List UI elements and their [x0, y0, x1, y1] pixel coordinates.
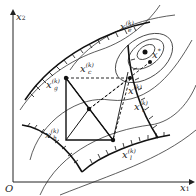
optimum-label: x*: [152, 48, 161, 60]
complex-method-diagram: x2 x1 O x* x(k)e x(k)c x(k)g x(k)h x(k)r…: [0, 0, 196, 196]
xl-label: x(k)l: [122, 148, 132, 161]
xg-label: x(k)g: [46, 78, 58, 91]
xc-label: x(k)c: [80, 62, 91, 75]
xh-label: x(k)h: [45, 128, 57, 141]
xr-label: x(k)r: [134, 100, 145, 113]
x-axis-label: x1: [180, 183, 189, 193]
xe-label: x(k)e: [120, 20, 132, 33]
xk-label: x(k): [128, 84, 142, 96]
y-axis-label: x2: [16, 12, 25, 22]
origin-label: O: [5, 184, 13, 194]
diagram-graphics: [0, 0, 196, 196]
objective-contours: [20, 5, 196, 195]
constraint-hatches: [27, 27, 164, 163]
